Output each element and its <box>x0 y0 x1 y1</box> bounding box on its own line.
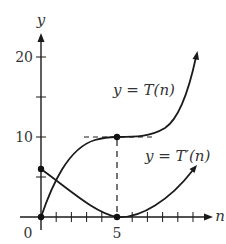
point-T-origin <box>38 214 44 220</box>
y-axis-label: y <box>36 11 46 29</box>
point-T-inflection <box>114 134 120 140</box>
origin-label: 0 <box>24 225 33 241</box>
point-Tprime-0 <box>38 166 44 172</box>
y-tick-label-10: 10 <box>15 129 33 145</box>
point-Tprime-min <box>114 214 120 220</box>
x-axis-label: n <box>215 207 225 225</box>
curve-T-arrow-icon <box>193 51 200 60</box>
y-tick-label-20: 20 <box>15 49 33 65</box>
y-axis-arrow-icon <box>38 33 45 42</box>
graph: y n 0 5 10 20 y = T(n) y = T′(n) <box>0 0 226 244</box>
curve-Tprime-label: y = T′(n) <box>144 147 211 165</box>
x-tick-label-5: 5 <box>113 225 122 241</box>
curve-T-label: y = T(n) <box>112 81 175 99</box>
x-axis-arrow-icon <box>204 214 213 221</box>
